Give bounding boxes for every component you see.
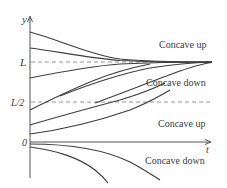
region-label-half-to-L: Concave down — [146, 77, 206, 88]
region-label-below-zero: Concave down — [145, 155, 205, 166]
region-label-zero-to-half: Concave up — [158, 118, 206, 129]
logistic-solution-curves-diagram: y t L L/2 0 Concave up Concave down Conc… — [0, 0, 227, 188]
region-label-above-L: Concave up — [159, 39, 207, 50]
t-axis-label: t — [206, 144, 209, 155]
solution-curve-above-L-2 — [30, 48, 212, 62]
solution-curve-below-zero-1 — [30, 144, 160, 180]
solution-curve-zero-to-half-1 — [30, 64, 150, 110]
solution-curve-below-zero-2 — [30, 147, 108, 183]
tick-label-L: L — [19, 56, 26, 68]
y-axis-label: y — [21, 13, 27, 25]
tick-label-zero: 0 — [22, 137, 27, 148]
solution-curve-zero-to-half-3 — [30, 90, 170, 134]
tick-label-half-L: L/2 — [10, 97, 24, 108]
